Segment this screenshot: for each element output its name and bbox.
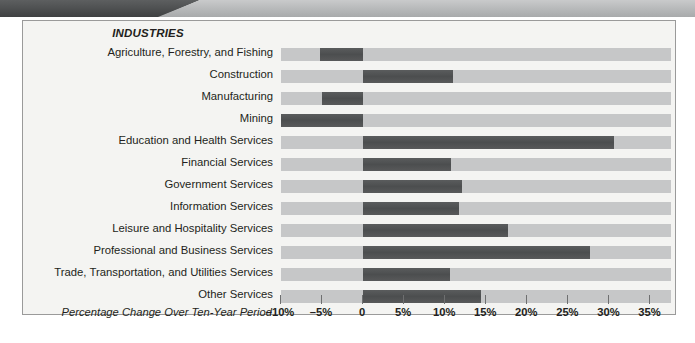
bar-category-label: Mining <box>23 112 273 124</box>
axis-tick-label: 10% <box>433 306 455 318</box>
bar-track <box>281 48 671 61</box>
bar-category-label: Financial Services <box>23 156 273 168</box>
bar-category-label: Professional and Business Services <box>23 244 273 256</box>
bar-track <box>281 136 671 149</box>
bar-value <box>320 48 364 61</box>
bar-track <box>281 70 671 83</box>
bar-category-label: Information Services <box>23 200 273 212</box>
bar-row: Manufacturing <box>23 88 675 110</box>
bar-value <box>363 158 451 171</box>
chart-title: INDUSTRIES <box>23 27 273 39</box>
axis-tick-label: 5% <box>395 306 411 318</box>
bar-rows-container: Agriculture, Forestry, and FishingConstr… <box>23 44 675 308</box>
bar-track <box>281 92 671 105</box>
axis-tick-label: 35% <box>638 306 660 318</box>
bar-row: Construction <box>23 66 675 88</box>
axis-tick <box>649 295 650 304</box>
bar-category-label: Government Services <box>23 178 273 190</box>
bar-track <box>281 246 671 259</box>
bar-row: Trade, Transportation, and Utilities Ser… <box>23 264 675 286</box>
axis-tick-label: 30% <box>597 306 619 318</box>
bar-value <box>363 70 453 83</box>
axis-tick <box>403 295 404 304</box>
banner-light-shape <box>158 0 695 17</box>
bar-row: Agriculture, Forestry, and Fishing <box>23 44 675 66</box>
bar-row: Mining <box>23 110 675 132</box>
axis-tick <box>526 295 527 304</box>
bar-row: Professional and Business Services <box>23 242 675 264</box>
bar-track <box>281 202 671 215</box>
bar-category-label: Education and Health Services <box>23 134 273 146</box>
bar-value <box>363 180 462 193</box>
decorative-banner <box>0 0 695 17</box>
axis-tick-label: 25% <box>556 306 578 318</box>
axis-tick <box>321 295 322 304</box>
axis-tick-label: 20% <box>515 306 537 318</box>
bar-value <box>363 246 590 259</box>
chart-panel: INDUSTRIES Agriculture, Forestry, and Fi… <box>22 20 676 315</box>
bar-track <box>281 158 671 171</box>
axis-tick-label: –10% <box>266 306 295 318</box>
bar-track <box>281 180 671 193</box>
bar-value <box>363 136 613 149</box>
bar-category-label: Manufacturing <box>23 90 273 102</box>
axis-tick-label: 15% <box>474 306 496 318</box>
bar-value <box>322 92 363 105</box>
bar-row: Leisure and Hospitality Services <box>23 220 675 242</box>
bar-row: Government Services <box>23 176 675 198</box>
bar-track <box>281 224 671 237</box>
x-axis: Percentage Change Over Ten-Year Period –… <box>0 295 695 343</box>
bar-track <box>281 114 671 127</box>
bar-row: Information Services <box>23 198 675 220</box>
bar-value <box>363 268 450 281</box>
axis-tick <box>608 295 609 304</box>
bar-category-label: Agriculture, Forestry, and Fishing <box>23 46 273 58</box>
axis-tick <box>485 295 486 304</box>
bar-value <box>363 224 508 237</box>
axis-tick <box>362 295 363 304</box>
x-axis-caption: Percentage Change Over Ten-Year Period <box>0 306 272 318</box>
axis-tick-label: 0 <box>359 306 365 318</box>
bar-category-label: Trade, Transportation, and Utilities Ser… <box>23 266 273 278</box>
axis-tick-label: –5% <box>310 306 332 318</box>
axis-tick <box>444 295 445 304</box>
bar-category-label: Construction <box>23 68 273 80</box>
axis-tick <box>567 295 568 304</box>
bar-category-label: Leisure and Hospitality Services <box>23 222 273 234</box>
bar-row: Education and Health Services <box>23 132 675 154</box>
bar-value <box>363 202 459 215</box>
bar-row: Financial Services <box>23 154 675 176</box>
axis-tick <box>280 295 281 304</box>
bar-track <box>281 268 671 281</box>
bar-value <box>281 114 363 127</box>
